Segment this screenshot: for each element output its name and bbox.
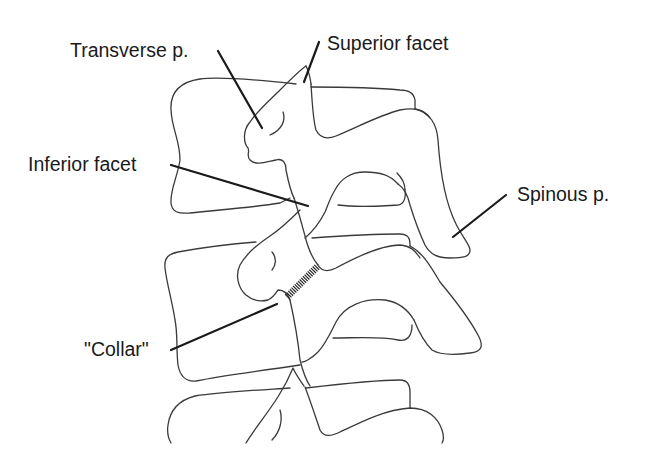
middle-transverse-process (238, 210, 300, 301)
upper-spinous-process (398, 109, 470, 258)
middle-lamina-arch (302, 300, 414, 362)
transverse-process-detail (270, 112, 284, 135)
leader-collar (171, 304, 277, 350)
middle-vertebral-body (165, 242, 300, 381)
lower-body-top-plate (306, 380, 410, 408)
middle-spinous-process (410, 246, 481, 354)
upper-body-top-plate (311, 87, 415, 109)
middle-lamina-floor (333, 325, 412, 340)
leader-inferior-facet (171, 165, 308, 206)
middle-body-top-plate (312, 234, 410, 246)
vertebrae-diagram: Transverse p. Superior facet Inferior fa… (0, 0, 648, 455)
lower-vertebra (168, 368, 444, 443)
middle-vertebra (165, 210, 481, 386)
upper-vertebral-body (171, 78, 296, 213)
middle-pedicle-edge (318, 245, 420, 271)
label-transverse-process: Transverse p. (70, 39, 189, 61)
upper-lamina-floor (338, 190, 405, 207)
upper-lamina-arch (305, 172, 398, 238)
leader-spinous-process (453, 195, 506, 237)
label-superior-facet: Superior facet (327, 32, 449, 54)
middle-transverse-detail (272, 252, 275, 270)
lower-facet-spike (246, 368, 304, 443)
upper-pedicle-edge (311, 84, 430, 138)
collar-hatch-band (287, 266, 318, 297)
leader-superior-facet (304, 42, 319, 82)
label-collar: "Collar" (84, 338, 149, 360)
middle-inferior-articular (290, 300, 310, 386)
upper-inferior-articular (294, 198, 318, 265)
upper-vertebra (171, 66, 470, 265)
leader-transverse-process (218, 51, 262, 128)
label-spinous-process: Spinous p. (517, 183, 609, 205)
upper-spinous-notch (397, 173, 405, 190)
label-inferior-facet: Inferior facet (28, 153, 137, 175)
lower-vertebral-body (168, 388, 290, 443)
lower-pedicle-edge (305, 387, 444, 443)
lower-transverse-detail (272, 410, 281, 440)
